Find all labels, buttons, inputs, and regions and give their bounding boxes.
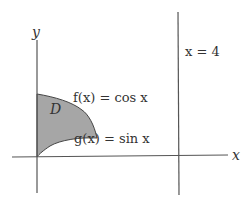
- lower-curve-label: g(x) = sin x: [74, 131, 150, 146]
- vertical-line-label: x = 4: [185, 44, 220, 59]
- region-label: D: [49, 101, 61, 117]
- y-axis-label: y: [31, 24, 41, 40]
- upper-curve-label: f(x) = cos x: [73, 90, 148, 105]
- x-axis-label: x: [232, 147, 240, 163]
- label-layer: y x f(x) = cos x g(x) = sin x x = 4 D: [0, 0, 251, 206]
